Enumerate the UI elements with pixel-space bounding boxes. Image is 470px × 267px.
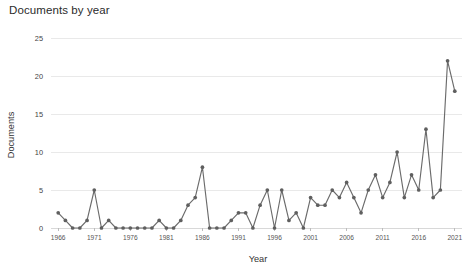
data-point: [287, 219, 291, 223]
x-axis-tick-label: 2016: [411, 234, 426, 241]
data-point: [193, 196, 197, 200]
data-point: [114, 226, 118, 230]
x-axis-tick-label: 1971: [87, 234, 102, 241]
data-point: [431, 196, 435, 200]
y-axis-tick-label: 15: [35, 110, 43, 119]
data-point: [294, 211, 298, 215]
data-point: [136, 226, 140, 230]
x-axis-tick-label: 1991: [231, 234, 246, 241]
data-point: [215, 226, 219, 230]
data-point: [107, 219, 111, 223]
data-point: [402, 196, 406, 200]
data-point: [56, 211, 60, 215]
y-axis-tick-label: 10: [35, 148, 43, 157]
data-point: [273, 226, 277, 230]
data-point: [345, 181, 349, 185]
x-axis-tick-label: 2011: [376, 234, 391, 241]
x-axis-tick-label: 1976: [123, 234, 138, 241]
data-point: [417, 188, 421, 192]
data-point: [186, 203, 190, 207]
data-point: [237, 211, 241, 215]
documents-series-markers: [56, 59, 456, 230]
x-axis-tick-label: 2006: [339, 234, 354, 241]
data-point: [453, 89, 457, 93]
x-axis-tick-label: 1981: [159, 234, 174, 241]
gridlines-group: [51, 38, 462, 228]
data-point: [323, 203, 327, 207]
x-axis-tick-label: 2021: [447, 234, 462, 241]
data-point: [100, 226, 104, 230]
data-point: [121, 226, 125, 230]
data-point: [85, 219, 89, 223]
x-axis-tick-labels: 1966197119761981198619911996200120062011…: [51, 234, 463, 241]
data-point: [208, 226, 212, 230]
data-point: [446, 59, 450, 63]
x-axis-tick-label: 2001: [303, 234, 318, 241]
data-point: [352, 196, 356, 200]
data-point: [179, 219, 183, 223]
x-axis-tick-label: 1996: [267, 234, 282, 241]
x-axis-title: Year: [249, 254, 268, 264]
data-point: [150, 226, 154, 230]
data-point: [201, 165, 205, 169]
data-point: [316, 203, 320, 207]
data-point: [244, 211, 248, 215]
data-point: [71, 226, 75, 230]
y-axis-title: Documents: [6, 111, 16, 158]
data-point: [157, 219, 161, 223]
data-point: [222, 226, 226, 230]
data-point: [410, 173, 414, 177]
y-axis-tick-label: 25: [35, 34, 43, 43]
documents-by-year-chart: Documents by year 0510152025 19661971197…: [0, 0, 470, 267]
data-point: [388, 181, 392, 185]
data-point: [395, 150, 399, 154]
data-point: [338, 196, 342, 200]
data-point: [439, 188, 443, 192]
data-point: [229, 219, 233, 223]
x-axis-tick-label: 1966: [51, 234, 66, 241]
data-point: [172, 226, 176, 230]
data-point: [359, 211, 363, 215]
x-axis-tick-label: 1986: [195, 234, 210, 241]
data-point: [64, 219, 68, 223]
documents-series-line: [58, 61, 455, 228]
data-point: [424, 127, 428, 131]
data-point: [302, 226, 306, 230]
y-axis-tick-label: 0: [39, 224, 43, 233]
data-point: [366, 188, 370, 192]
y-axis-tick-label: 5: [39, 186, 43, 195]
data-point: [258, 203, 262, 207]
chart-plot-area: 0510152025 19661971197619811986199119962…: [0, 0, 470, 267]
data-point: [92, 188, 96, 192]
data-point: [78, 226, 82, 230]
data-point: [280, 188, 284, 192]
data-point: [128, 226, 132, 230]
data-point: [309, 196, 313, 200]
y-axis-tick-label: 20: [35, 72, 43, 81]
data-point: [374, 173, 378, 177]
data-point: [251, 226, 255, 230]
data-point: [165, 226, 169, 230]
data-point: [381, 196, 385, 200]
data-point: [265, 188, 269, 192]
data-point: [143, 226, 147, 230]
y-axis-tick-labels: 0510152025: [35, 34, 43, 233]
data-point: [330, 188, 334, 192]
